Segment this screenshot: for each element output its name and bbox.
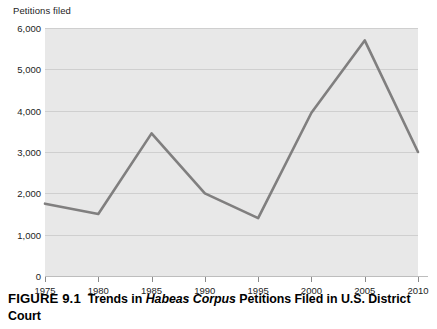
x-tick-mark: [365, 277, 366, 282]
chart-plot-region: 6,0005,0004,0003,0002,0001,0000 19751980…: [0, 22, 437, 284]
caption-lead-text: Trends in: [88, 292, 146, 306]
x-tick-mark: [311, 277, 312, 282]
x-tick-mark: [152, 277, 153, 282]
x-tick-mark: [205, 277, 206, 282]
x-tick-mark: [45, 277, 46, 282]
figure-number: FIGURE 9.1: [8, 291, 81, 306]
x-tick-mark: [258, 277, 259, 282]
x-tick-mark: [418, 277, 419, 282]
figure-caption: FIGURE 9.1 Trends in Habeas Corpus Petit…: [8, 291, 432, 324]
caption-italic-term: Habeas Corpus: [146, 292, 236, 306]
y-axis-title: Petitions filed: [13, 5, 71, 16]
x-axis-tick-marks: [0, 277, 437, 283]
x-tick-mark: [98, 277, 99, 282]
figure-container: Petitions filed 6,0005,0004,0003,0002,00…: [0, 0, 437, 329]
line-series-svg: [0, 22, 437, 284]
petitions-line-series: [45, 40, 418, 218]
